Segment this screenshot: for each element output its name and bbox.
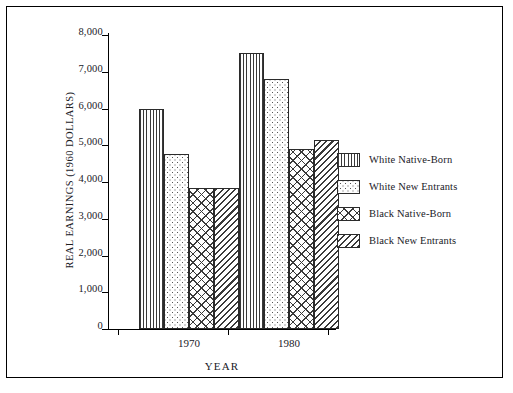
legend-item: Black New Entrants [337, 227, 457, 254]
y-tick-label: 3,000 [78, 211, 103, 222]
y-tick-label: 8,000 [78, 27, 103, 38]
y-axis-title-text: REAL EARNINGS (1960 DOLLARS) [64, 92, 75, 269]
legend-swatch-icon [337, 207, 360, 221]
bar [214, 188, 239, 329]
legend-item: Black Native-Born [337, 200, 457, 227]
x-axis-line [108, 329, 336, 330]
plot-area [108, 35, 323, 329]
legend-swatch-icon [337, 234, 360, 248]
x-tick-mark [118, 329, 119, 335]
bar [264, 79, 289, 329]
bar [139, 109, 164, 330]
chart-figure: 01,0002,0003,0004,0005,0006,0007,0008,00… [0, 0, 513, 393]
bar [189, 188, 214, 329]
chart-legend: White Native-BornWhite New EntrantsBlack… [337, 146, 457, 254]
legend-label: White New Entrants [369, 181, 457, 192]
legend-swatch-icon [337, 153, 360, 167]
y-tick-label: 2,000 [78, 248, 103, 259]
y-tick-label: 5,000 [78, 137, 103, 148]
x-tick-mark [228, 329, 229, 335]
bar [289, 149, 314, 329]
legend-label: White Native-Born [369, 154, 452, 165]
bar [314, 140, 339, 329]
legend-swatch-icon [337, 180, 360, 194]
legend-item: White New Entrants [337, 173, 457, 200]
legend-item: White Native-Born [337, 146, 457, 173]
x-tick-label: 1980 [229, 338, 349, 349]
y-tick-label: 6,000 [78, 101, 103, 112]
y-axis-title: REAL EARNINGS (1960 DOLLARS) [62, 80, 76, 280]
y-tick-label: 7,000 [78, 64, 103, 75]
bar [239, 53, 264, 329]
legend-label: Black Native-Born [369, 208, 451, 219]
x-tick-mark [328, 329, 329, 335]
x-axis-title: YEAR [108, 360, 336, 372]
y-tick-label: 4,000 [78, 174, 103, 185]
y-tick-label: 0 [98, 321, 103, 332]
bar [164, 154, 189, 329]
y-tick-label: 1,000 [78, 284, 103, 295]
legend-label: Black New Entrants [369, 235, 456, 246]
